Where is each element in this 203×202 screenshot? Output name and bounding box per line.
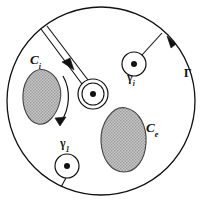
keyhole-pole-dot <box>90 91 96 97</box>
label-blob-exterior-sub: e <box>155 130 159 139</box>
label-pole-gamma-i: γi <box>127 71 135 86</box>
connector-gamma-i-to-boundary <box>142 33 162 55</box>
contour-diagram-figure: Ci Ce γi γ1 Γ <box>0 0 203 202</box>
blob-interior <box>23 70 61 125</box>
label-pole-gamma-1-base: γ <box>60 136 66 150</box>
branch-cut-line-lower <box>47 26 88 80</box>
label-blob-interior: Ci <box>30 53 41 70</box>
label-pole-gamma-i-base: γ <box>127 70 133 84</box>
label-blob-interior-sub: i <box>39 62 41 71</box>
label-pole-gamma-i-sub: i <box>133 79 135 88</box>
connector-gamma-1-to-boundary <box>61 178 66 187</box>
label-outer-contour: Γ <box>184 67 192 82</box>
contour-diagram-canvas <box>0 0 203 202</box>
label-outer-contour-base: Γ <box>184 66 192 80</box>
label-blob-exterior: Ce <box>146 121 158 138</box>
label-pole-gamma-1-sub: 1 <box>66 145 70 154</box>
blob-exterior <box>101 108 146 172</box>
label-blob-interior-base: C <box>30 52 39 67</box>
blob-interior-direction-arc <box>61 76 68 122</box>
pole-dot-gamma-i <box>131 61 137 67</box>
blob-interior-direction-arrow <box>55 117 66 126</box>
label-blob-exterior-base: C <box>146 120 155 135</box>
label-pole-gamma-1: γ1 <box>60 137 69 152</box>
pole-dot-gamma-1 <box>64 163 70 169</box>
